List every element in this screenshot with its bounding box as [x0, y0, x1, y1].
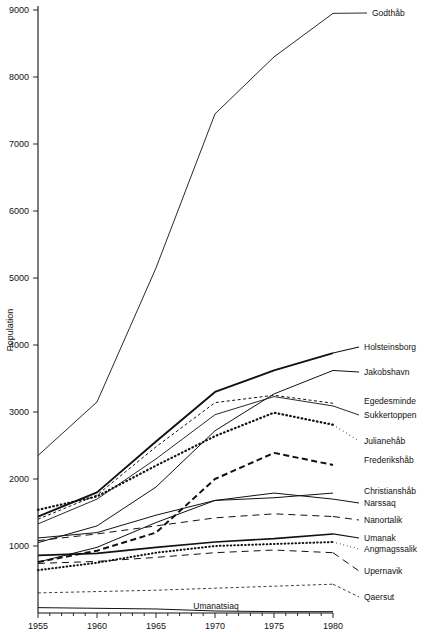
- y-axis-ticks: 100020003000400050006000700080009000: [9, 5, 38, 551]
- series-leader-line: [333, 553, 359, 571]
- y-tick-label: 1000: [9, 541, 29, 551]
- x-tick-label: 1970: [205, 621, 225, 631]
- series-leader-line: [333, 499, 359, 503]
- series-label: Angmagssalik: [364, 544, 418, 554]
- y-tick-label: 8000: [9, 72, 29, 82]
- y-tick-label: 3000: [9, 407, 29, 417]
- x-axis-ticks: 195519601965197019751980: [28, 613, 343, 631]
- series-label: Umanatsiaq: [193, 601, 239, 611]
- series-label: Christianshåb: [364, 486, 416, 496]
- x-tick-label: 1960: [87, 621, 107, 631]
- series-label: Qaersut: [364, 592, 395, 602]
- chart-canvas: 100020003000400050006000700080009000 195…: [0, 0, 429, 632]
- x-tick-label: 1965: [146, 621, 166, 631]
- series-line: [38, 13, 333, 455]
- series-line: [38, 493, 333, 538]
- x-tick-label: 1975: [264, 621, 284, 631]
- population-line-chart: 100020003000400050006000700080009000 195…: [0, 0, 429, 632]
- series-leader-line: [333, 370, 359, 372]
- series-line: [38, 534, 333, 555]
- series-label: Holsteinsborg: [364, 342, 416, 352]
- y-tick-label: 6000: [9, 206, 29, 216]
- series-label: Godthåb: [372, 8, 405, 18]
- series-line: [38, 514, 333, 541]
- series-label: Jakobshavn: [364, 367, 410, 377]
- y-tick-label: 5000: [9, 273, 29, 283]
- series-leader-line: [333, 517, 359, 520]
- y-tick-label: 2000: [9, 474, 29, 484]
- y-axis-title: Population: [5, 309, 15, 352]
- series-line: [38, 353, 333, 516]
- series-leader-line: [333, 347, 359, 353]
- series-line: [38, 493, 333, 562]
- series-lines-group: [38, 13, 333, 611]
- x-tick-label: 1955: [28, 621, 48, 631]
- series-line: [38, 542, 333, 570]
- series-labels-group: GodthåbHolsteinsborgJakobshavnEgedesmind…: [193, 8, 417, 611]
- series-leader-line: [333, 425, 359, 441]
- x-tick-label: 1980: [323, 621, 343, 631]
- series-label: Julianehåb: [364, 436, 405, 446]
- series-label: Sukkertoppen: [364, 410, 417, 420]
- series-line: [38, 413, 333, 510]
- series-label: Egedesminde: [364, 396, 416, 406]
- series-line: [38, 584, 333, 593]
- series-label: Nanortalik: [364, 515, 403, 525]
- series-line: [38, 550, 333, 563]
- series-leader-line: [333, 542, 359, 549]
- y-tick-label: 7000: [9, 139, 29, 149]
- series-leader-line: [333, 584, 359, 597]
- series-line: [38, 395, 333, 519]
- series-label: Umanak: [364, 533, 396, 543]
- series-leader-line: [333, 534, 359, 538]
- series-line: [38, 608, 333, 612]
- label-leader-lines: [333, 13, 367, 597]
- series-label: Frederikshåb: [364, 455, 414, 465]
- y-tick-label: 9000: [9, 5, 29, 15]
- series-label: Narssaq: [364, 498, 396, 508]
- series-leader-line: [333, 406, 359, 415]
- series-label: Upernavik: [364, 566, 403, 576]
